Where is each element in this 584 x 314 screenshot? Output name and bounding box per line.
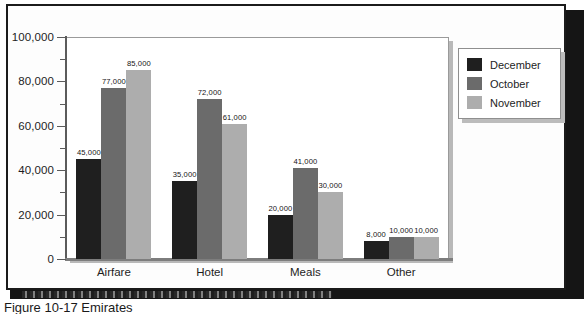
- bar-value-label: 45,000: [77, 148, 101, 157]
- legend-label: November: [490, 97, 541, 109]
- scan-smudge: [22, 291, 332, 298]
- y-axis-major-tick: [57, 259, 66, 260]
- bar: [414, 237, 439, 259]
- bar: [222, 124, 247, 259]
- x-axis-category-label: Other: [387, 266, 416, 278]
- bar-value-label: 41,000: [293, 157, 317, 166]
- y-axis-tick-label: 0: [6, 253, 54, 265]
- bar: [76, 159, 101, 259]
- bar: [389, 237, 414, 259]
- bar-value-label: 30,000: [318, 181, 342, 190]
- bar-value-label: 10,000: [389, 226, 413, 235]
- x-axis-category-label: Airfare: [97, 266, 131, 278]
- legend-swatch-icon: [467, 77, 482, 90]
- figure-caption: Figure 10-17 Emirates: [4, 300, 133, 314]
- y-axis-major-tick: [57, 170, 66, 171]
- y-axis-major-tick: [57, 37, 66, 38]
- bar-value-label: 8,000: [366, 230, 386, 239]
- bar: [172, 181, 197, 259]
- legend-item-october: October: [467, 74, 560, 93]
- figure-root: 020,00040,00060,00080,000100,000 45,0007…: [0, 0, 584, 314]
- chart-legend: DecemberOctoberNovember: [458, 48, 561, 119]
- legend-label: December: [490, 59, 541, 71]
- bar: [268, 215, 293, 259]
- y-axis-tick-label: 40,000: [6, 164, 54, 176]
- bar-value-label: 72,000: [198, 88, 222, 97]
- bar: [318, 192, 343, 259]
- bar: [126, 70, 151, 259]
- bar-value-label: 10,000: [414, 226, 438, 235]
- y-axis-labels: 020,00040,00060,00080,000100,000: [6, 4, 54, 290]
- bar-value-label: 85,000: [127, 59, 151, 68]
- scan-edge-right: [566, 10, 584, 294]
- legend-item-december: December: [467, 55, 560, 74]
- bar-value-label: 77,000: [102, 77, 126, 86]
- bar: [293, 168, 318, 259]
- y-axis-tick-label: 20,000: [6, 209, 54, 221]
- y-axis-tick-label: 100,000: [6, 31, 54, 43]
- legend-swatch-icon: [467, 58, 482, 71]
- bar: [197, 99, 222, 259]
- y-axis-major-tick: [57, 126, 66, 127]
- bar-value-label: 35,000: [173, 170, 197, 179]
- legend-swatch-icon: [467, 96, 482, 109]
- bar-chart: 020,00040,00060,00080,000100,000 45,0007…: [6, 4, 566, 290]
- y-axis-major-tick: [57, 81, 66, 82]
- bar: [364, 241, 389, 259]
- legend-item-november: November: [467, 93, 560, 112]
- y-axis-tick-label: 60,000: [6, 120, 54, 132]
- bar: [101, 88, 126, 259]
- bar-value-label: 61,000: [223, 113, 247, 122]
- x-axis-category-label: Hotel: [196, 266, 223, 278]
- y-axis-tick-label: 80,000: [6, 75, 54, 87]
- x-axis-category-label: Meals: [290, 266, 321, 278]
- legend-label: October: [490, 78, 529, 90]
- bar-value-label: 20,000: [268, 204, 292, 213]
- y-axis-major-tick: [57, 215, 66, 216]
